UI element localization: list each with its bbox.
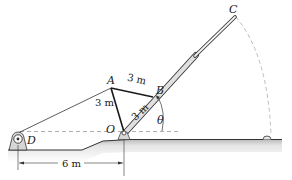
label-D: D <box>26 134 36 147</box>
cable-DA <box>18 88 111 133</box>
dim-AO: 3 m <box>95 97 115 108</box>
dim-AB: 3 m <box>126 72 147 87</box>
label-theta: θ <box>157 114 164 127</box>
dim-DO: 6 m <box>62 158 82 169</box>
stop-bump-icon <box>263 136 271 140</box>
mechanism-diagram: A B C O D 3 m 3 m 3 m 6 m θ <box>0 0 292 180</box>
swing-arc <box>236 17 271 135</box>
link-AB <box>111 88 153 97</box>
label-O: O <box>106 123 115 136</box>
ground <box>8 140 282 163</box>
label-C: C <box>229 3 238 16</box>
label-B: B <box>155 84 164 97</box>
label-A: A <box>106 74 115 87</box>
